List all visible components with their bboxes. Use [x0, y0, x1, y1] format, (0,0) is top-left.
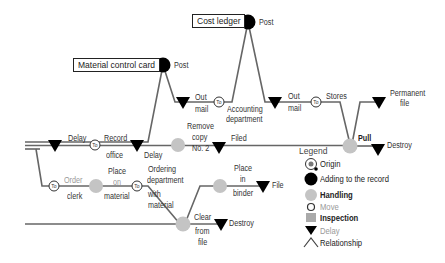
legend-delay: Delay [320, 226, 340, 236]
label-accounting-1: Accounting [227, 104, 263, 114]
legend-handling: Handling [320, 190, 353, 200]
label-file: File [272, 180, 284, 190]
handling-remove-copy [171, 138, 185, 152]
label-permanent-1: Permanent [390, 88, 425, 98]
label-record-office-1: Record [104, 133, 127, 143]
handling-place-in-binder [213, 179, 227, 193]
svg-text:To: To [313, 99, 319, 105]
label-destroy-1: Destroy [387, 140, 412, 150]
legend-adding-to-record: Adding to the record [320, 174, 389, 184]
handling-place-on-material [89, 179, 103, 193]
label-stores: Stores [326, 91, 347, 101]
label-remove-2: copy [192, 132, 207, 142]
label-record-office-2: office [106, 150, 123, 160]
flow-diagram-canvas: To To To To To [0, 0, 445, 263]
label-clear-3: file [198, 237, 207, 247]
svg-text:To: To [134, 183, 140, 189]
label-place-in-1: Place [234, 163, 252, 173]
record-cost-ledger: Cost ledger [192, 14, 245, 28]
label-place-on-3: material [104, 191, 130, 201]
label-place-in-3: binder [233, 188, 253, 198]
label-clear-1: Clear [194, 212, 211, 222]
label-filed: Filed [231, 133, 247, 143]
label-ordering-4: material [148, 200, 174, 210]
label-post-2: Post [259, 17, 273, 27]
label-ordering-2: department [147, 175, 184, 185]
label-ordering-3: with [148, 189, 161, 199]
record-material-control-card: Material control card [73, 58, 160, 72]
label-clear-2: from [195, 226, 209, 236]
handling-clear-from-file [176, 217, 191, 232]
legend-origin: Origin [320, 159, 340, 169]
move-icons: To To To To To [49, 97, 321, 191]
label-order-1: Order [64, 175, 82, 185]
svg-text:To: To [92, 142, 98, 148]
label-accounting-2: department [226, 114, 263, 124]
label-out-mail-1a: Out [195, 92, 207, 102]
label-permanent-2: file [400, 98, 409, 108]
label-pull: Pull [358, 133, 371, 143]
label-order-2: clerk [67, 191, 82, 201]
label-post-1: Post [174, 60, 188, 70]
legend-move: Move [320, 202, 339, 212]
handling-pull [343, 139, 358, 154]
label-destroy-2: Destroy [229, 218, 254, 228]
label-delay-2: Delay [144, 150, 162, 160]
label-place-on-1: Place [108, 166, 126, 176]
label-ordering-1: Ordering [148, 164, 176, 174]
legend-title: Legend [299, 146, 327, 156]
svg-text:To: To [216, 99, 222, 105]
label-place-in-2: in [240, 174, 246, 184]
label-place-on-2: on [113, 177, 121, 187]
label-remove-1: Remove [187, 121, 214, 131]
svg-text:To: To [51, 183, 57, 189]
label-out-mail-2a: Out [288, 91, 300, 101]
legend-symbols [304, 159, 318, 248]
label-delay-1: Delay [68, 133, 86, 143]
legend-relationship: Relationship [320, 238, 362, 248]
label-out-mail-2b: mail [288, 103, 301, 113]
label-remove-3: No. 2 [192, 143, 209, 153]
legend-inspection: Inspection [320, 213, 358, 223]
label-out-mail-1b: mail [195, 104, 208, 114]
